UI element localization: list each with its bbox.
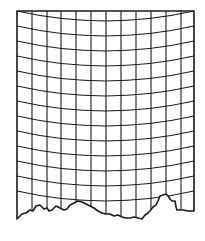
torn-grid-paper [0,0,205,241]
grid-paper-figure [0,0,205,241]
vertical-grid-lines [32,11,181,218]
